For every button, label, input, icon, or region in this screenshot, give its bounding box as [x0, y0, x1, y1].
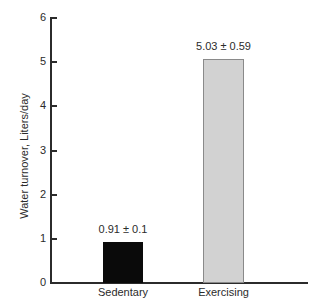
- y-axis-tick-2: [52, 194, 57, 196]
- y-axis-tick-label-2: 2: [32, 189, 46, 200]
- y-axis-tick-label-0: 0: [32, 277, 46, 288]
- y-axis-tick-3: [52, 150, 57, 152]
- value-label-exercising: 5.03 ± 0.59: [183, 41, 264, 52]
- y-axis-tick-label-5: 5: [32, 56, 46, 67]
- bar-chart-figure: 6 5 4 3 2 1 0 Water turnover, Liters/day…: [0, 0, 316, 303]
- y-axis-tick-1: [52, 238, 57, 240]
- y-axis-tick-4: [52, 105, 57, 107]
- y-axis-tick-label-3: 3: [32, 145, 46, 156]
- y-axis-tick-label-6: 6: [32, 12, 46, 23]
- category-label-exercising: Exercising: [183, 287, 264, 298]
- value-label-sedentary: 0.91 ± 0.1: [83, 224, 163, 235]
- y-axis-title: Water turnover, Liters/day: [18, 61, 30, 251]
- y-axis-tick-label-1: 1: [32, 233, 46, 244]
- bar-exercising: [203, 59, 244, 283]
- y-axis-tick-6: [52, 17, 57, 19]
- category-label-sedentary: Sedentary: [83, 287, 163, 298]
- y-axis-tick-5: [52, 61, 57, 63]
- bar-sedentary: [103, 242, 143, 283]
- x-axis-line: [50, 282, 308, 284]
- y-axis-tick-0: [52, 282, 57, 284]
- y-axis-tick-label-4: 4: [32, 100, 46, 111]
